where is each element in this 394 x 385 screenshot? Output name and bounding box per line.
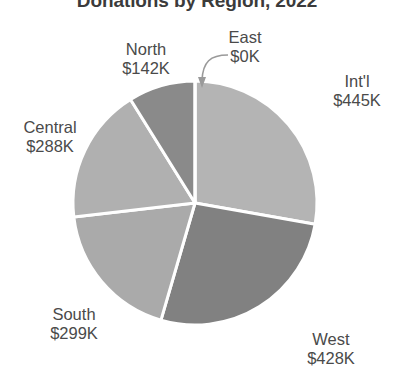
slice-label-south-value: $299K xyxy=(28,324,120,343)
slice-label-west: West $428K xyxy=(286,330,376,368)
slice-label-central-name: Central xyxy=(2,118,98,137)
slice-label-west-name: West xyxy=(286,330,376,349)
slice-label-central-value: $288K xyxy=(2,137,98,156)
slice-label-south-name: South xyxy=(28,305,120,324)
slice-label-east: East $0K xyxy=(210,28,280,66)
slice-label-intl: Int'l $445K xyxy=(322,72,392,110)
slice-label-east-name: East xyxy=(210,28,280,47)
slice-label-intl-name: Int'l xyxy=(322,72,392,91)
slice-label-west-value: $428K xyxy=(286,349,376,368)
slice-label-central: Central $288K xyxy=(2,118,98,156)
pie-slices-group xyxy=(73,81,317,325)
slice-label-intl-value: $445K xyxy=(322,91,392,110)
pie-slice-intl xyxy=(195,81,317,224)
slice-label-north-name: North xyxy=(104,40,188,59)
slice-label-north-value: $142K xyxy=(104,59,188,78)
pie-chart-figure: Donations by Region, 2022 North $142K Ea… xyxy=(0,0,394,385)
slice-label-south: South $299K xyxy=(28,305,120,343)
slice-label-east-value: $0K xyxy=(210,47,280,66)
slice-label-north: North $142K xyxy=(104,40,188,78)
